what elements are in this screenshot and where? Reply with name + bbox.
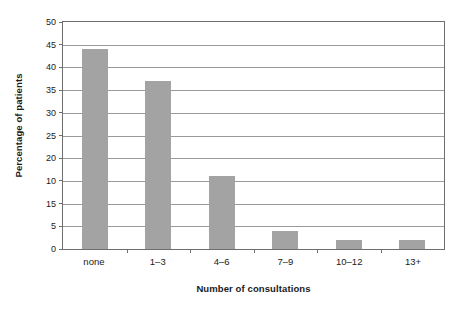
y-axis-tick-label: 40 (46, 62, 59, 72)
x-axis-tick-mark (127, 249, 128, 253)
y-axis-tick-label: 5 (51, 221, 59, 231)
bar-series (63, 22, 444, 249)
y-axis-tick: 35 (46, 85, 63, 95)
y-axis-tick-label: 35 (46, 85, 59, 95)
y-axis-tick: 5 (51, 221, 63, 231)
bar (272, 231, 298, 249)
x-axis-tick-label: 13+ (381, 256, 445, 267)
y-axis-tick-label: 45 (46, 40, 59, 50)
plot-area: 50454035302520101550 (62, 21, 445, 250)
y-axis-tick-label: 10 (46, 176, 59, 186)
x-axis-tick-labels: none1–34–67–910–1213+ (62, 256, 445, 267)
y-axis-title: Percentage of patients (10, 0, 26, 250)
x-axis-tick-mark (190, 249, 191, 253)
x-axis-tick-label: 4–6 (190, 256, 254, 267)
bar-slot (381, 22, 445, 249)
y-axis-tick-label: 50 (46, 17, 59, 27)
y-axis-tick-label: 15 (46, 199, 59, 209)
x-axis-tick-label: 10–12 (317, 256, 381, 267)
bar (209, 176, 235, 249)
y-axis-title-text: Percentage of patients (13, 73, 24, 177)
y-axis-tick-label: 25 (46, 131, 59, 141)
y-axis-tick: 40 (46, 62, 63, 72)
y-axis-tick-label: 30 (46, 108, 59, 118)
bar-slot (317, 22, 381, 249)
y-axis-tick: 25 (46, 131, 63, 141)
y-axis-tick-label: 20 (46, 153, 59, 163)
y-axis-tick: 10 (46, 176, 63, 186)
bar (145, 81, 171, 249)
x-axis-tick-mark (381, 249, 382, 253)
bar (82, 49, 108, 249)
y-axis-tick-label: 0 (51, 244, 59, 254)
y-axis-tick: 0 (51, 244, 63, 254)
x-axis-tick-mark (254, 249, 255, 253)
x-axis-tick-label: 7–9 (253, 256, 317, 267)
x-axis-tick-mark (317, 249, 318, 253)
bar-slot (254, 22, 318, 249)
bar-slot (190, 22, 254, 249)
y-axis-tick: 45 (46, 40, 63, 50)
x-axis-title: Number of consultations (62, 283, 445, 294)
x-axis-tick-label: none (62, 256, 126, 267)
y-axis-tick: 50 (46, 17, 63, 27)
bar-chart-figure: Percentage of patients 50454035302520101… (0, 0, 467, 310)
bar (399, 240, 425, 249)
y-axis-tick: 30 (46, 108, 63, 118)
bar-slot (127, 22, 191, 249)
y-axis-tick: 20 (46, 153, 63, 163)
bar (336, 240, 362, 249)
bar-slot (63, 22, 127, 249)
y-axis-tick: 15 (46, 199, 63, 209)
x-axis-tick-label: 1–3 (126, 256, 190, 267)
